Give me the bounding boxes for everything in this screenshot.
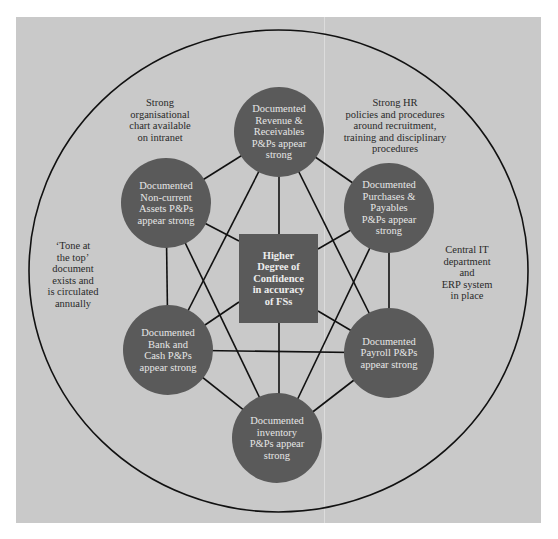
node-label: Documented inventory P&Ps appear strong	[250, 415, 305, 461]
node-label: Documented Non-current Assets P&Ps appea…	[138, 180, 195, 226]
node-label: Documented Bank and Cash P&Ps appear str…	[140, 327, 197, 373]
node-bank-cash: Documented Bank and Cash P&Ps appear str…	[123, 305, 213, 395]
note-org-chart: Strong organisational chart available on…	[110, 97, 210, 143]
node-purchases-payables: Documented Purchases & Payables P&Ps app…	[344, 163, 434, 253]
node-label: Documented Payroll P&Ps appear strong	[361, 336, 418, 371]
center-box-confidence: Higher Degree of Confidence in accuracy …	[239, 234, 318, 323]
note-tone-at-top: ‘Tone at the top’ document exists and is…	[38, 240, 108, 309]
note-hr-policies: Strong HR policies and procedures around…	[330, 97, 460, 155]
node-inventory: Documented inventory P&Ps appear strong	[232, 393, 322, 483]
node-label: Documented Purchases & Payables P&Ps app…	[362, 179, 417, 237]
node-noncurrent-assets: Documented Non-current Assets P&Ps appea…	[121, 158, 211, 248]
node-label: Documented Revenue & Receivables P&Ps ap…	[252, 103, 307, 161]
node-revenue-receivables: Documented Revenue & Receivables P&Ps ap…	[234, 87, 324, 177]
center-label: Higher Degree of Confidence in accuracy …	[253, 250, 305, 308]
note-central-it: Central IT department and ERP system in …	[432, 244, 502, 302]
node-payroll: Documented Payroll P&Ps appear strong	[344, 308, 434, 398]
